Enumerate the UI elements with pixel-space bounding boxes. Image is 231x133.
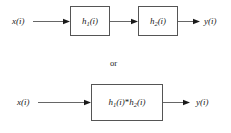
bottom-arrow-input-to-block bbox=[38, 99, 91, 106]
block-h2[interactable]: h2(i) bbox=[138, 6, 178, 36]
block-diagram-figure: x(i) h1(i) h2(i) y(i) or bbox=[0, 0, 231, 133]
top-arrow-block2-to-output bbox=[178, 18, 200, 25]
block-h1-conv-h2-label: h1(i)*h2(i) bbox=[109, 98, 146, 107]
bottom-arrow-block-to-output bbox=[163, 99, 190, 106]
block-h2-label: h2(i) bbox=[150, 17, 166, 26]
top-input-signal-label: x(i) bbox=[12, 17, 25, 26]
top-output-signal-label: y(i) bbox=[204, 17, 217, 26]
bottom-output-signal-label: y(i) bbox=[196, 98, 209, 107]
block-h1-label: h1(i) bbox=[82, 17, 98, 26]
top-arrow-input-to-block1 bbox=[33, 18, 70, 25]
block-h1-conv-h2[interactable]: h1(i)*h2(i) bbox=[91, 84, 163, 121]
block-h1[interactable]: h1(i) bbox=[70, 6, 110, 36]
top-arrow-block1-to-block2 bbox=[110, 18, 138, 25]
alternative-connector-text: or bbox=[110, 59, 117, 68]
bottom-input-signal-label: x(i) bbox=[17, 98, 30, 107]
